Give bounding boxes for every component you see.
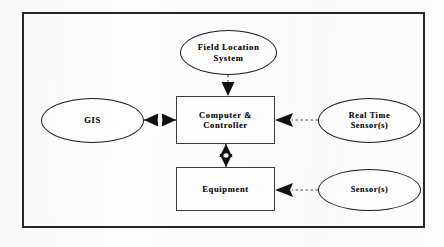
node-field-location-system[interactable]: Field Location System: [180, 30, 277, 75]
node-label-real-time-sensors: Real Time Sensor(s): [349, 111, 390, 130]
node-label-gis: GIS: [84, 115, 101, 125]
node-equipment[interactable]: Equipment: [176, 167, 275, 211]
node-sensors[interactable]: Sensor(s): [318, 169, 421, 211]
node-label-equipment: Equipment: [202, 184, 248, 194]
diagram-canvas: Field Location System GIS Computer & Con…: [0, 0, 444, 247]
connector-gis-to-computer: [144, 114, 176, 127]
node-label-computer-controller: Computer & Controller: [199, 110, 252, 130]
connector-computer-to-equipment: [220, 144, 233, 167]
node-label-sensors: Sensor(s): [351, 185, 389, 195]
connector-sensors-to-equipment: [275, 183, 318, 197]
node-label-field-location-system: Field Location System: [198, 42, 260, 62]
node-gis[interactable]: GIS: [41, 98, 144, 143]
node-computer-controller[interactable]: Computer & Controller: [176, 96, 275, 144]
connector-fls-to-computer: [222, 75, 235, 96]
connector-realtime-sensors-to-computer: [275, 113, 318, 127]
node-real-time-sensors[interactable]: Real Time Sensor(s): [318, 98, 421, 143]
